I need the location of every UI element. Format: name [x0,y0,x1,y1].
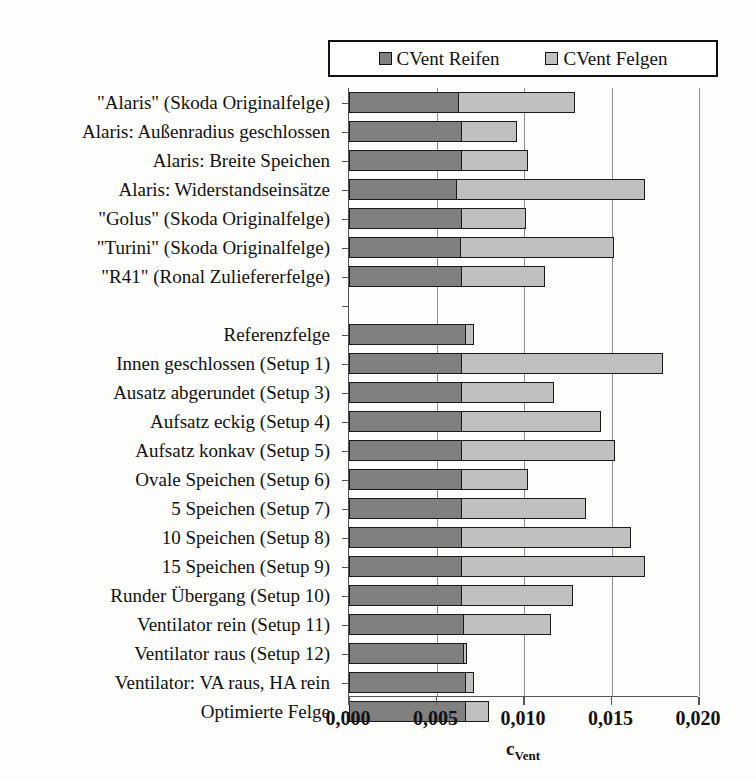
bar-stack [349,382,554,403]
bar-segment-reifen[interactable] [349,411,463,432]
y-axis-label: Optimierte Felge [201,697,330,726]
bar-row[interactable] [349,146,528,175]
bar-segment-felgen[interactable] [461,440,615,461]
bar-row[interactable] [349,668,474,697]
x-axis-title: cVent [506,738,540,764]
bar-segment-felgen[interactable] [461,469,528,490]
bar-stack [349,585,573,606]
bar-segment-reifen[interactable] [349,150,463,171]
y-axis-tick [342,364,349,366]
y-axis-label: Ventilator raus (Setup 12) [134,639,330,668]
bar-row[interactable] [349,262,545,291]
bar-row[interactable] [349,233,614,262]
bar-segment-felgen[interactable] [463,643,467,664]
bar-segment-reifen[interactable] [349,469,463,490]
bar-segment-felgen[interactable] [461,266,545,287]
y-axis-tick [342,103,349,105]
bar-row[interactable] [349,378,554,407]
bar-row[interactable] [349,610,551,639]
y-axis-label: 5 Speichen (Setup 7) [171,494,330,523]
bar-segment-felgen[interactable] [461,150,528,171]
x-axis-tick-label: 0,020 [676,707,721,730]
bar-stack [349,179,645,200]
bar-segment-reifen[interactable] [349,324,466,345]
bar-row[interactable] [349,320,474,349]
bar-segment-felgen[interactable] [465,672,474,693]
bar-segment-reifen[interactable] [349,237,461,258]
bar-segment-felgen[interactable] [461,585,573,606]
bar-segment-reifen[interactable] [349,92,459,113]
bar-segment-felgen[interactable] [460,237,614,258]
legend-swatch-reifen [379,52,392,65]
bar-stack [349,121,517,142]
bar-row[interactable] [349,117,517,146]
bar-segment-reifen[interactable] [349,179,458,200]
x-axis-tick-label: 0,015 [588,707,633,730]
y-axis-tick [342,451,349,453]
bar-segment-reifen[interactable] [349,527,463,548]
y-axis-label: Runder Übergang (Setup 10) [110,581,330,610]
bar-row[interactable] [349,436,615,465]
bar-stack [349,556,645,577]
bar-row[interactable] [349,349,663,378]
bar-segment-reifen[interactable] [349,556,463,577]
y-axis-label: Alaris: Breite Speichen [153,146,330,175]
bar-stack [349,92,575,113]
bar-row[interactable] [349,407,601,436]
y-axis-label: 10 Speichen (Setup 8) [162,523,330,552]
bar-row[interactable] [349,204,526,233]
y-axis-label: "Golus" (Skoda Originalfelge) [98,204,330,233]
bar-segment-reifen[interactable] [349,440,463,461]
y-axis-label: Ausatz abgerundet (Setup 3) [113,378,330,407]
x-axis-tick [698,697,700,705]
bar-segment-reifen[interactable] [349,614,465,635]
bar-segment-felgen[interactable] [461,556,645,577]
bar-segment-reifen[interactable] [349,208,463,229]
bar-stack [349,527,631,548]
bar-row[interactable] [349,523,631,552]
bar-row[interactable] [349,494,586,523]
y-axis-label: Alaris: Widerstandseinsätze [118,175,330,204]
bar-segment-felgen[interactable] [461,527,631,548]
bar-segment-felgen[interactable] [461,208,526,229]
bar-segment-felgen[interactable] [465,324,474,345]
bar-row[interactable] [349,581,573,610]
bar-segment-felgen[interactable] [461,382,554,403]
x-axis-tick [523,697,525,705]
y-axis-tick [342,306,349,308]
y-axis-label: Ventilator: VA raus, HA rein [115,668,330,697]
y-axis-label: "R41" (Ronal Zuliefererfelge) [101,262,330,291]
bar-segment-felgen[interactable] [461,353,662,374]
bar-segment-reifen[interactable] [349,643,465,664]
bar-segment-felgen[interactable] [458,92,575,113]
bar-segment-felgen[interactable] [456,179,645,200]
bar-segment-felgen[interactable] [463,614,551,635]
bar-row[interactable] [349,552,645,581]
bar-segment-reifen[interactable] [349,585,463,606]
bar-segment-reifen[interactable] [349,498,463,519]
x-axis-title-subscript: Vent [514,748,540,763]
bar-segment-reifen[interactable] [349,121,463,142]
bars-layer [349,88,698,696]
y-axis-tick [342,654,349,656]
y-axis-label: Aufsatz eckig (Setup 4) [150,407,330,436]
plot-right-edge [699,88,700,696]
bar-segment-felgen[interactable] [465,701,490,722]
bar-stack [349,150,528,171]
bar-segment-reifen[interactable] [349,382,463,403]
bar-segment-reifen[interactable] [349,266,463,287]
bar-segment-felgen[interactable] [461,498,585,519]
y-axis-tick [342,277,349,279]
bar-segment-felgen[interactable] [461,121,517,142]
x-axis-tick [611,697,613,705]
legend-label-felgen: CVent Felgen [563,49,667,68]
bar-segment-reifen[interactable] [349,353,463,374]
y-axis-tick [342,480,349,482]
bar-segment-felgen[interactable] [461,411,601,432]
bar-row[interactable] [349,465,528,494]
bar-segment-reifen[interactable] [349,672,466,693]
bar-row[interactable] [349,88,575,117]
bar-row[interactable] [349,175,645,204]
bar-stack [349,440,615,461]
bar-row[interactable] [349,639,467,668]
